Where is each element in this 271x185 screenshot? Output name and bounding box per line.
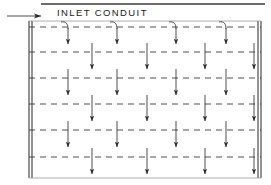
header-tee-curve-3 [169,22,176,29]
diagram-canvas: INLET CONDUIT [0,0,271,185]
header-tee-curve-4 [219,22,226,29]
inlet-conduit-label: INLET CONDUIT [57,7,148,18]
distribution-basin-drawing [0,0,271,185]
header-tee-curve-2 [110,22,117,29]
header-tee-curve-1 [61,22,68,29]
drawing-geometry [7,4,265,178]
